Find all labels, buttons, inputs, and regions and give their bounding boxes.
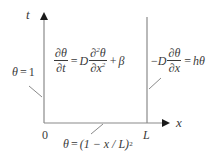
convective-term: hθ [193,55,205,67]
time-derivative: ∂θ ∂t [54,47,68,74]
x-axis-label: x [176,116,182,129]
second-derivative: ∂2θ ∂x2 [89,47,106,74]
interior-pde: ∂θ ∂t = D ∂2θ ∂x2 + β [53,47,124,74]
partial-x: ∂x [91,61,102,75]
initial-condition-leader [91,124,103,134]
denominator: ∂x [169,61,180,74]
equals-sign: = [71,55,78,67]
diffusion-coefficient: D [80,55,89,67]
theta-symbol: θ [63,138,69,150]
diffusion-coefficient: D [158,55,167,67]
equals-sign: = [184,55,191,67]
equals-sign: = [71,138,78,150]
left-boundary-condition: θ = 1 [12,66,35,78]
origin-label: 0 [42,129,48,141]
theta-symbol: θ [100,46,106,60]
denominator: ∂x2 [91,61,106,74]
numerator: ∂θ [54,47,68,61]
numerator: ∂2θ [89,47,106,61]
right-bc-leader [149,78,161,89]
domain-diagram [0,0,221,160]
denominator: ∂t [56,61,65,74]
bc-value: 1 [29,66,35,78]
initial-condition: θ = (1 − x / L)2 [63,138,133,150]
exponent: 2 [102,61,106,69]
flux-derivative: ∂θ ∂x [167,47,181,74]
left-bc-leader [29,86,42,97]
theta-symbol: θ [12,66,18,78]
right-boundary-condition: − D ∂θ ∂x = hθ [151,47,205,74]
equals-sign: = [20,66,27,78]
L-label: L [143,129,150,141]
source-term: β [118,55,124,67]
t-axis-label: t [26,8,30,21]
initial-profile: (1 − x / L) [80,138,129,150]
numerator: ∂θ [167,47,181,61]
plus-sign: + [110,55,117,67]
minus-sign: − [151,55,158,67]
